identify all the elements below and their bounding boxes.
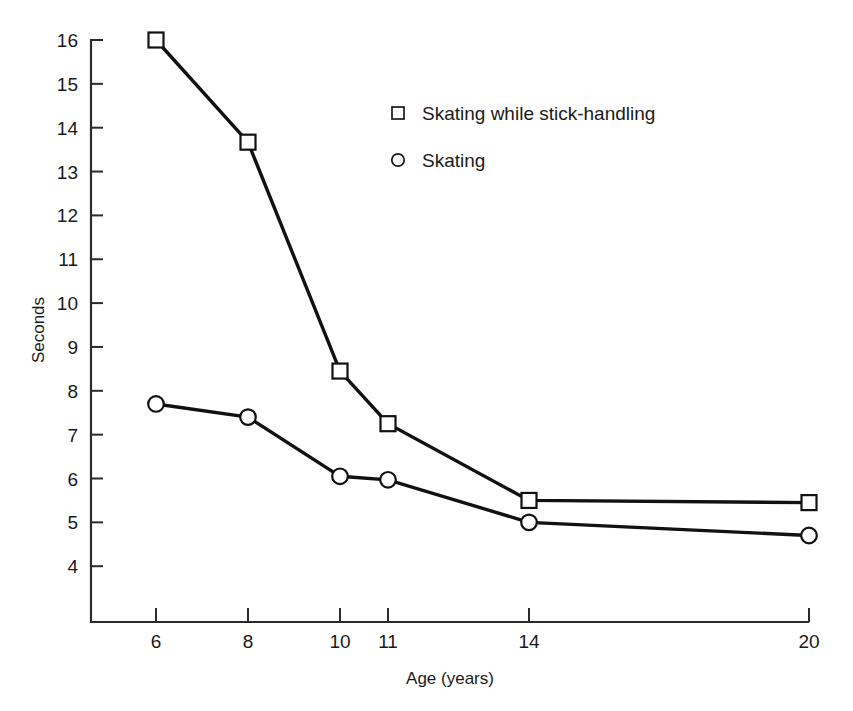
x-tick-label: 14 [518, 631, 540, 652]
data-point-square [241, 135, 256, 150]
data-point-square [522, 493, 537, 508]
y-tick-label: 9 [67, 337, 78, 358]
y-tick-label: 5 [67, 512, 78, 533]
legend-entry-label: Skating [422, 150, 485, 171]
legend-marker-circle [392, 154, 404, 166]
legend-marker-square [392, 107, 404, 119]
data-point-square [802, 495, 817, 510]
y-tick-label: 14 [57, 118, 79, 139]
chart-figure: 45678910111213141516 6810111420 Skating … [0, 0, 853, 711]
axis-lines [91, 40, 808, 622]
legend-entry-label: Skating while stick-handling [422, 103, 655, 124]
x-tick-label: 20 [798, 631, 819, 652]
y-tick-label: 8 [67, 381, 78, 402]
data-point-square [149, 33, 164, 48]
x-tick-label: 11 [378, 631, 398, 652]
y-tick-label: 4 [67, 556, 78, 577]
y-axis-ticks [91, 40, 103, 566]
y-tick-label: 13 [57, 162, 78, 183]
x-tick-label: 8 [243, 631, 254, 652]
data-point-square [333, 364, 348, 379]
y-tick-label: 12 [57, 205, 78, 226]
data-point-circle [521, 515, 537, 531]
y-axis-tick-labels: 45678910111213141516 [57, 30, 79, 577]
x-tick-label: 10 [329, 631, 350, 652]
y-tick-label: 7 [67, 425, 78, 446]
y-tick-label: 6 [67, 469, 78, 490]
data-point-circle [332, 469, 348, 485]
y-tick-label: 15 [57, 74, 78, 95]
data-point-circle [801, 528, 817, 544]
x-axis-tick-labels: 6810111420 [151, 631, 820, 652]
y-axis-title: Seconds [29, 297, 48, 363]
line-chart-plot: 45678910111213141516 6810111420 Skating … [0, 0, 853, 711]
data-point-square [381, 416, 396, 431]
data-point-circle [240, 409, 256, 425]
x-tick-label: 6 [151, 631, 162, 652]
y-tick-label: 16 [57, 30, 78, 51]
chart-legend: Skating while stick-handlingSkating [392, 103, 656, 171]
x-axis-title: Age (years) [406, 669, 494, 688]
y-tick-label: 10 [57, 293, 78, 314]
data-point-circle [148, 396, 164, 412]
y-tick-label: 11 [58, 249, 78, 270]
x-axis-ticks [156, 608, 809, 622]
data-point-circle [380, 472, 396, 488]
